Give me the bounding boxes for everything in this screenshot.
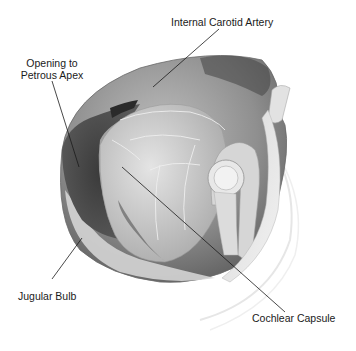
label-line-1: Opening to [18,57,86,69]
label-jugular-bulb: Jugular Bulb [18,290,76,302]
label-opening-to-petrous-apex: Opening to Petrous Apex [18,57,86,81]
label-cochlear-capsule: Cochlear Capsule [252,312,335,324]
label-line-2: Petrous Apex [18,69,86,81]
label-internal-carotid-artery: Internal Carotid Artery [171,16,273,28]
leader-jugular-bulb [52,238,82,279]
